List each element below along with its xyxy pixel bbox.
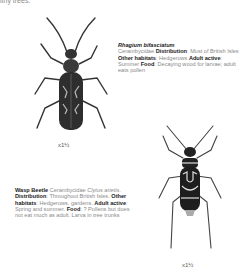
- active-label: Adult active: [189, 55, 221, 61]
- rhagium-beetle-illustration: [15, 12, 125, 142]
- food-label: Food: [67, 206, 81, 212]
- species-description-wasp-beetle: Wasp Beetle Cerambycidae Clytus arietis.…: [15, 187, 130, 218]
- habitats-value: Hedgerows: [159, 55, 187, 61]
- continued-text: lthy trees.: [0, 0, 30, 4]
- active-value: Spring and summer: [15, 206, 64, 212]
- scale-label: x1½: [182, 262, 193, 268]
- species-description-rhagium: Rhagium bifasciatum Cerambycidae Distrib…: [118, 42, 241, 73]
- scale-label: x1½: [58, 142, 69, 148]
- distribution-value: Most of British Isles: [190, 48, 239, 54]
- habitats-label: Other habitats: [118, 55, 156, 61]
- species-latin: Clytus arietis: [87, 187, 119, 193]
- species-family: Cerambycidae: [50, 187, 86, 193]
- species-family: Cerambycidae: [118, 48, 154, 54]
- species-name: Rhagium bifasciatum: [118, 42, 175, 48]
- active-value: Summer: [118, 61, 139, 67]
- distribution-label: Distribution: [15, 193, 46, 199]
- distribution-label: Distribution: [156, 48, 187, 54]
- wasp-beetle-illustration: [145, 118, 235, 258]
- active-label: Adult active: [94, 200, 126, 206]
- distribution-value: Throughout British Isles: [49, 193, 108, 199]
- species-name: Wasp Beetle: [15, 187, 48, 193]
- habitats-value: Hedgerows, gardens: [40, 200, 92, 206]
- food-label: Food: [141, 61, 155, 67]
